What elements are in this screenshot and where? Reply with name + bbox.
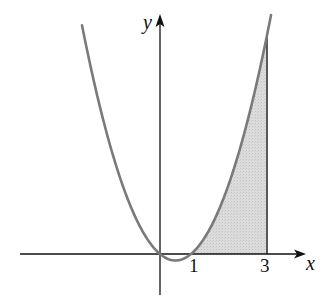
function-graph: y x 1 3: [0, 0, 334, 305]
tick-label-1: 1: [189, 255, 199, 276]
shaded-area: [191, 35, 267, 254]
tick-label-3: 3: [260, 255, 270, 276]
y-axis-label: y: [141, 11, 152, 34]
x-axis-label: x: [305, 252, 315, 274]
